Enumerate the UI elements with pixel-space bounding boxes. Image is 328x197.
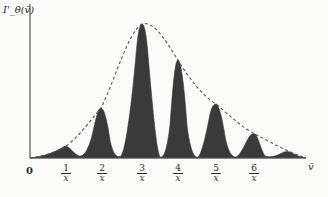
tick-label-6: 6 x: [249, 164, 259, 183]
tick-label-5: 5 x: [211, 164, 221, 183]
x-axis-label: v̄: [308, 161, 314, 172]
intensity-peaks-area: [30, 24, 306, 158]
tick-label-4: 4 x: [173, 164, 183, 183]
y-axis-label: I'_θ(v̄): [3, 4, 34, 15]
origin-label: 0: [26, 165, 33, 176]
tick-label-3: 3 x: [137, 164, 147, 183]
tick-label-1: 1 x: [61, 164, 71, 183]
tick-label-2: 2 x: [97, 164, 107, 183]
diffraction-intensity-diagram: [0, 0, 328, 197]
